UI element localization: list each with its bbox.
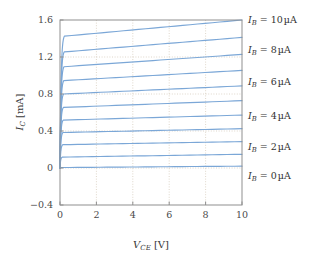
y-tick-label: 0.8 (38, 88, 53, 99)
y-tick-label: −0.4 (30, 199, 53, 210)
curve-ib-5ua (60, 101, 242, 168)
legend-label-ib-10ua: IB = 10 µA (248, 15, 297, 25)
curve-ib-3ua (60, 129, 242, 168)
x-tick-label: 10 (236, 209, 248, 220)
legend-label-ib-8ua: IB = 8 µA (248, 45, 291, 55)
tickmarks-group (60, 20, 242, 205)
legend-label-ib-6ua: IB = 6 µA (248, 77, 291, 87)
plot-frame (60, 20, 242, 205)
x-tick-label: 2 (93, 209, 99, 220)
y-tick-label: 0 (47, 162, 53, 173)
x-tick-label: 8 (203, 209, 209, 220)
legend-label-ib-2ua: IB = 2 µA (248, 142, 291, 152)
gridlines-group (60, 20, 242, 205)
y-axis-title: IC [mA] (14, 93, 27, 131)
transistor-output-characteristics-plot: 0246810 −0.400.40.81.21.6 VCE [V] IC [mA… (0, 0, 325, 266)
y-tick-label: 0.4 (38, 125, 53, 136)
x-tick-label: 0 (57, 209, 63, 220)
y-tick-label: 1.2 (38, 51, 53, 62)
x-tick-labels-group: 0246810 (57, 209, 248, 220)
y-tick-labels-group: −0.400.40.81.21.6 (30, 14, 53, 210)
legend-label-ib-0ua: IB = 0 µA (248, 171, 291, 181)
x-tick-label: 6 (166, 209, 172, 220)
x-axis-title: VCE [V] (133, 239, 169, 252)
legend-label-ib-4ua: IB = 4 µA (248, 111, 291, 121)
chart-figure: 0246810 −0.400.40.81.21.6 VCE [V] IC [mA… (0, 0, 325, 266)
y-tick-label: 1.6 (38, 14, 53, 25)
x-tick-label: 4 (130, 209, 136, 220)
